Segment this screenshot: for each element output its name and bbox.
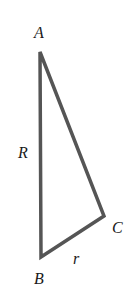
triangle-abc: [40, 52, 104, 257]
side-label-r-upper: R: [17, 144, 28, 161]
vertex-label-b: B: [34, 270, 44, 286]
vertex-label-a: A: [33, 24, 44, 41]
triangle-diagram: A B C R r: [0, 0, 136, 286]
side-label-r-lower: r: [73, 250, 80, 267]
vertex-label-c: C: [112, 219, 123, 236]
